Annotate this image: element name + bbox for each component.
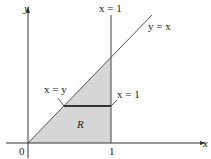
origin-label: 0 (19, 145, 25, 157)
segment-left-label: x = y (44, 83, 67, 95)
x-tick-label-1: 1 (109, 145, 115, 157)
y-axis-label: y (23, 2, 29, 14)
region-diagram: y x 0 1 x = 1 y = x x = y x = 1 R (0, 0, 211, 159)
pointer-left (58, 98, 64, 106)
vertical-line-label: x = 1 (99, 2, 122, 14)
region-label: R (76, 118, 84, 130)
x-axis-label: x (202, 137, 208, 149)
segment-right-label: x = 1 (117, 88, 140, 100)
pointer-right (111, 100, 117, 106)
diagonal-line-label: y = x (148, 20, 171, 32)
